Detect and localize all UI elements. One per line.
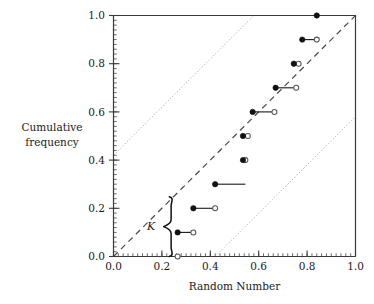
open-circle-marker bbox=[175, 254, 180, 259]
open-circle-marker bbox=[272, 109, 277, 114]
y-tick-label: 1.0 bbox=[88, 9, 105, 21]
filled-circle-marker bbox=[175, 230, 180, 235]
brace-label-k: K bbox=[146, 220, 156, 233]
scatter-plot-canvas: 0.00.20.40.60.81.0 0.00.20.40.60.81.0 Ra… bbox=[0, 0, 374, 304]
open-circle-marker bbox=[296, 61, 301, 66]
filled-circle-marker bbox=[191, 206, 196, 211]
filled-circle-marker bbox=[300, 37, 305, 42]
x-tick-label: 0.2 bbox=[154, 260, 171, 272]
y-axis-title-line-1: Cumulative bbox=[22, 121, 83, 133]
filled-circle-marker bbox=[240, 133, 245, 138]
filled-circle-marker bbox=[240, 157, 245, 162]
y-tick-label: 0.4 bbox=[88, 154, 105, 166]
x-tick-label: 0.0 bbox=[105, 260, 122, 272]
open-circle-marker bbox=[245, 134, 250, 139]
x-tick-label: 1.0 bbox=[347, 260, 364, 272]
y-tick-label: 0.8 bbox=[88, 57, 105, 69]
filled-circle-marker bbox=[273, 85, 278, 90]
chart-figure: 0.00.20.40.60.81.0 0.00.20.40.60.81.0 Ra… bbox=[0, 0, 374, 304]
y-axis-title-line-2: frequency bbox=[25, 136, 78, 148]
open-circle-marker bbox=[191, 230, 196, 235]
open-circle-marker bbox=[213, 206, 218, 211]
y-tick-label: 0.2 bbox=[88, 202, 105, 214]
y-tick-label: 0.0 bbox=[88, 250, 105, 262]
filled-circle-marker bbox=[291, 61, 296, 66]
y-tick-label: 0.6 bbox=[88, 106, 105, 118]
x-tick-label: 0.6 bbox=[250, 260, 267, 272]
filled-circle-marker bbox=[250, 109, 255, 114]
open-circle-marker bbox=[294, 85, 299, 90]
open-circle-marker bbox=[314, 37, 319, 42]
filled-circle-marker bbox=[212, 182, 217, 187]
plot-background bbox=[0, 0, 374, 304]
filled-circle-marker bbox=[314, 13, 319, 18]
x-axis-title: Random Number bbox=[189, 280, 281, 292]
x-tick-label: 0.4 bbox=[202, 260, 219, 272]
x-tick-label: 0.8 bbox=[299, 260, 316, 272]
